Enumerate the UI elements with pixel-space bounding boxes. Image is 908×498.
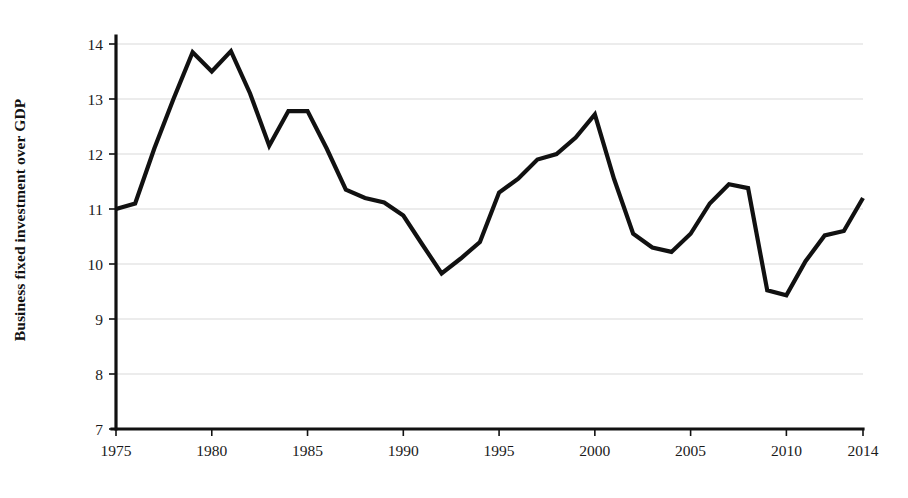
x-tick-label: 1975 <box>101 442 132 459</box>
x-tick-label: 1995 <box>484 442 515 459</box>
y-tick-label: 11 <box>88 201 103 218</box>
y-tick-label: 8 <box>95 366 103 383</box>
x-tick-label: 1985 <box>292 442 323 459</box>
x-axis-ticks-group: 197519801985199019952000200520102014 <box>101 429 879 459</box>
x-tick-label: 2005 <box>675 442 706 459</box>
x-tick-label: 2010 <box>771 442 802 459</box>
line-chart-plot: 7891011121314 19751980198519901995200020… <box>0 0 908 498</box>
x-tick-label: 1980 <box>196 442 227 459</box>
y-tick-label: 7 <box>95 421 103 438</box>
x-tick-label: 2000 <box>579 442 610 459</box>
data-series-line <box>116 51 863 295</box>
y-tick-label: 13 <box>88 91 104 108</box>
y-axis-ticks-group: 7891011121314 <box>88 36 117 438</box>
y-tick-label: 14 <box>88 36 104 53</box>
x-tick-label: 2014 <box>848 442 879 459</box>
y-tick-label: 9 <box>95 311 103 328</box>
y-tick-label: 12 <box>88 146 104 163</box>
x-tick-label: 1990 <box>388 442 419 459</box>
y-tick-label: 10 <box>88 256 104 273</box>
chart-figure: Business fixed investment over GDP 78910… <box>0 0 908 498</box>
